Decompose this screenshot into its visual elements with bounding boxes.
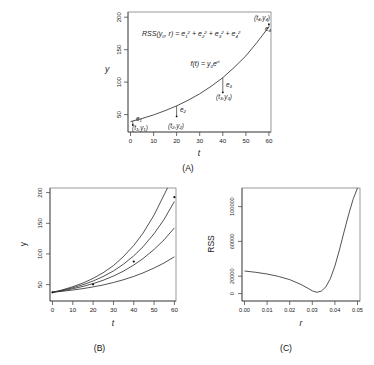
- panel-a: 50 100 150 200 y 0 10 20 30 40 50 60 t: [98, 4, 278, 172]
- panel-a-fit-curve: [131, 27, 269, 122]
- panel-a-ytick-3: 200: [115, 11, 122, 22]
- panel-c-y-axis-label: RSS: [206, 235, 216, 253]
- panel-c-xtick-3: 0.03: [307, 307, 318, 313]
- panel-c-label: (C): [280, 343, 292, 353]
- panel-b-xtick-3: 30: [110, 306, 117, 313]
- panel-a-xtick-2: 20: [173, 137, 180, 144]
- panel-a-xtick-6: 60: [265, 137, 272, 144]
- panel-c-x-axis-label: r: [300, 318, 304, 328]
- panel-a-plot: 50 100 150 200 y 0 10 20 30 40 50 60 t: [98, 4, 278, 172]
- panel-c-xtick-1: 0.01: [262, 307, 273, 313]
- panel-b-x-axis: 0 10 20 30 40 50 60 t: [50, 301, 178, 328]
- panel-a-xtick-3: 30: [196, 137, 203, 144]
- panel-b-frame: [50, 188, 176, 301]
- panel-b-ytick-0: 50: [36, 281, 43, 288]
- data-point-2: [176, 116, 178, 118]
- panel-a-ytick-1: 100: [115, 76, 122, 87]
- panel-b-y-axis: 50 100 150 200 y: [18, 187, 50, 301]
- panel-c-ytick-3: 100000: [229, 197, 235, 216]
- panel-c-xtick-4: 0.04: [329, 307, 340, 313]
- rss-equation-annotation: RSS(y0, r) = e12 + e22 + e32 + e42: [142, 30, 241, 39]
- panel-c: 0 20000 60000 100000 RSS 0.00 0.01 0.02 …: [200, 180, 372, 365]
- point-label-2: (t2,y2): [168, 122, 184, 130]
- point-label-3: (t3,y3): [216, 93, 232, 101]
- panel-a-y-axis: 50 100 150 200 y: [104, 11, 128, 132]
- panel-c-x-axis: 0.00 0.01 0.02 0.03 0.04 0.05 r: [239, 301, 363, 328]
- panel-c-y-axis: 0 20000 60000 100000 RSS: [206, 188, 242, 301]
- data-point-4: [173, 196, 175, 198]
- panel-c-rss-curve: [245, 188, 358, 292]
- panel-a-xtick-4: 40: [219, 137, 226, 144]
- panel-c-xtick-0: 0.00: [239, 307, 250, 313]
- panel-b-data-points: [51, 196, 175, 293]
- panel-b-label: (B): [94, 343, 105, 353]
- panel-a-xtick-0: 0: [129, 137, 133, 144]
- panel-c-xtick-5: 0.05: [352, 307, 363, 313]
- panel-b: 50 100 150 200 y 0 10 20 30 40 50 60 t: [12, 180, 187, 365]
- data-point-3: [133, 261, 135, 263]
- panel-b-y-axis-label: y: [18, 241, 28, 246]
- panel-a-xtick-1: 10: [150, 137, 157, 144]
- panel-a-label: (A): [182, 163, 193, 173]
- panel-a-x-axis: 0 10 20 30 40 50 60 t: [128, 132, 273, 158]
- panel-b-xtick-4: 40: [130, 306, 137, 313]
- panel-b-xtick-6: 60: [171, 306, 178, 313]
- residual-label-e1: e1: [136, 115, 143, 123]
- panel-c-ytick-0: 0: [229, 292, 235, 295]
- data-point-2: [92, 283, 94, 285]
- panel-b-curve-r040: [53, 188, 168, 292]
- panel-a-y-axis-label: y: [104, 64, 110, 74]
- panel-b-ytick-3: 200: [36, 187, 43, 198]
- panel-b-x-axis-label: t: [112, 318, 115, 328]
- point-label-1: (t1,y1): [132, 124, 148, 132]
- panel-c-plot: 0 20000 60000 100000 RSS 0.00 0.01 0.02 …: [200, 180, 372, 355]
- panel-c-ytick-2: 60000: [229, 234, 235, 250]
- panel-c-ytick-1: 20000: [229, 268, 235, 284]
- panel-b-xtick-0: 0: [51, 306, 55, 313]
- panel-b-plot: 50 100 150 200 y 0 10 20 30 40 50 60 t: [12, 180, 187, 355]
- panel-b-ytick-2: 150: [36, 218, 43, 229]
- panel-a-residual-labels: e1 e2 e3 e4: [136, 25, 272, 123]
- panel-c-xtick-2: 0.02: [284, 307, 295, 313]
- panel-b-xtick-1: 10: [69, 306, 76, 313]
- curve-equation-annotation: f(t) = y0ert: [190, 59, 220, 69]
- residual-label-e4: e4: [265, 25, 272, 33]
- residual-label-e2: e2: [180, 106, 187, 114]
- panel-b-ytick-1: 100: [36, 248, 43, 259]
- panel-b-xtick-5: 50: [151, 306, 158, 313]
- panel-b-xtick-2: 20: [90, 306, 97, 313]
- point-label-4: (t4,y4): [254, 14, 270, 22]
- data-point-1: [51, 291, 53, 293]
- residual-label-e3: e3: [226, 81, 233, 89]
- panel-a-ytick-2: 150: [115, 44, 122, 55]
- panel-a-residuals: [132, 23, 270, 126]
- panel-a-ytick-0: 50: [115, 111, 122, 118]
- panel-a-xtick-5: 50: [242, 137, 249, 144]
